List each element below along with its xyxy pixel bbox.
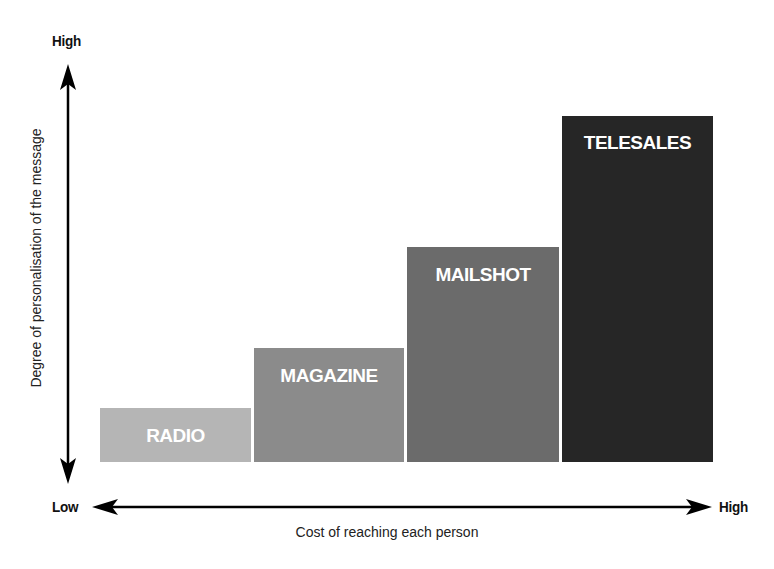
x-axis-label: Cost of reaching each person: [0, 524, 774, 540]
bar-magazine: MAGAZINE: [254, 348, 404, 462]
x-axis-low-label: Low: [52, 498, 78, 515]
y-axis-high-label: High: [52, 32, 81, 49]
bar-mailshot: MAILSHOT: [407, 247, 559, 462]
bar-label: RADIO: [100, 425, 251, 447]
bar-label: TELESALES: [562, 132, 713, 154]
y-axis-label: Degree of personalisation of the message: [28, 98, 44, 418]
bar-telesales: TELESALES: [562, 116, 713, 462]
x-axis-high-label: High: [719, 498, 748, 515]
bar-label: MAGAZINE: [254, 365, 404, 387]
bar-label: MAILSHOT: [407, 264, 559, 286]
bar-radio: RADIO: [100, 408, 251, 462]
